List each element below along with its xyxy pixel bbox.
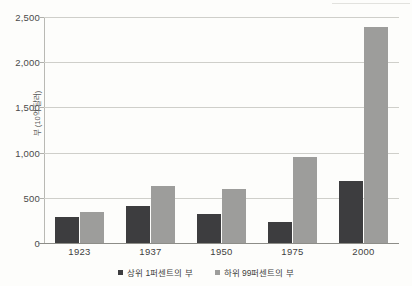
y-axis-tick-label-2500: 2,500 <box>0 12 40 23</box>
bar-1923-series-1 <box>55 217 79 243</box>
plot-area <box>44 17 399 243</box>
bar-1950-series-2 <box>222 189 246 243</box>
x-axis-tick-label-1923: 1923 <box>68 246 90 257</box>
x-axis-tick-label-1937: 1937 <box>139 246 161 257</box>
legend-label-bottom-99-percent: 하위 99퍼센트의 부 <box>224 266 294 278</box>
y-tickmark-1000 <box>38 153 44 154</box>
y-axis-tick-label-1000: 1,000 <box>0 147 40 158</box>
top-hairline-decoration <box>332 3 410 4</box>
bar-group-1937 <box>126 17 175 243</box>
legend-swatch-icon-dark <box>118 270 123 275</box>
y-tickmark-2000 <box>38 62 44 63</box>
bar-2000-series-2 <box>364 27 388 243</box>
bar-2000-series-1 <box>339 181 363 243</box>
x-axis-baseline <box>38 243 399 244</box>
bar-group-2000 <box>339 17 388 243</box>
x-axis-tick-label-2000: 2000 <box>352 246 374 257</box>
y-tickmark-500 <box>38 198 44 199</box>
legend-label-top-1-percent: 상위 1퍼센트의 부 <box>127 266 192 278</box>
bar-1923-series-2 <box>80 212 104 243</box>
y-axis-tick-label-0: 0 <box>0 238 40 249</box>
legend-swatch-icon-light <box>215 270 220 275</box>
y-tickmark-1500 <box>38 107 44 108</box>
x-axis-label-row: 1923 1937 1950 1975 2000 <box>44 246 399 262</box>
y-axis-label-column: 0 500 1,000 1,500 2,000 2,500 <box>0 17 40 243</box>
bar-group-1975 <box>268 17 317 243</box>
x-axis-tick-label-1950: 1950 <box>210 246 232 257</box>
y-axis-tick-label-2000: 2,000 <box>0 57 40 68</box>
chart-legend: 상위 1퍼센트의 부 하위 99퍼센트의 부 <box>0 266 412 278</box>
bar-1950-series-1 <box>197 214 221 243</box>
legend-item-top-1-percent: 상위 1퍼센트의 부 <box>118 266 192 278</box>
bar-1975-series-1 <box>268 222 292 243</box>
y-tickmark-2500 <box>38 17 44 18</box>
y-axis-tick-label-1500: 1,500 <box>0 102 40 113</box>
bar-1975-series-2 <box>293 157 317 243</box>
bar-1937-series-1 <box>126 206 150 243</box>
x-axis-tick-label-1975: 1975 <box>281 246 303 257</box>
bar-1937-series-2 <box>151 186 175 243</box>
bar-chart: 부 (10억 달러) 0 500 1,000 1,500 2,000 2,500… <box>0 0 412 286</box>
bar-group-1923 <box>55 17 104 243</box>
bar-group-1950 <box>197 17 246 243</box>
y-axis-tick-label-500: 500 <box>0 192 40 203</box>
legend-item-bottom-99-percent: 하위 99퍼센트의 부 <box>215 266 294 278</box>
